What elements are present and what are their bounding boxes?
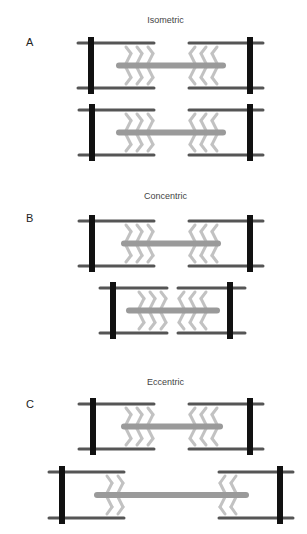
cross-bridge-icon: [212, 246, 217, 256]
cross-bridge-icon: [137, 415, 142, 425]
cross-bridge-icon: [137, 68, 142, 78]
cross-bridge-icon: [201, 246, 206, 256]
cross-bridge-icon: [190, 68, 195, 78]
cross-bridge-icon: [137, 121, 142, 131]
cross-bridge-icon: [212, 121, 217, 131]
sarcomere-diagram: [0, 0, 307, 534]
cross-bridge-icon: [179, 299, 184, 309]
cross-bridge-icon: [190, 121, 195, 131]
z-line: [88, 37, 94, 94]
cross-bridge-icon: [137, 232, 142, 242]
cross-bridge-icon: [126, 246, 131, 256]
cross-bridge-icon: [220, 497, 225, 507]
cross-bridge-icon: [201, 135, 206, 145]
cross-bridge-icon: [201, 299, 206, 309]
cross-bridge-icon: [139, 313, 144, 323]
z-line: [247, 398, 253, 455]
z-line: [90, 398, 96, 455]
z-line: [89, 215, 95, 272]
cross-bridge-icon: [150, 299, 155, 309]
z-line: [247, 37, 253, 94]
cross-bridge-icon: [231, 497, 236, 507]
cross-bridge-icon: [137, 54, 142, 64]
z-line: [277, 466, 283, 524]
cross-bridge-icon: [126, 415, 131, 425]
cross-bridge-icon: [201, 429, 206, 439]
cross-bridge-icon: [190, 135, 195, 145]
cross-bridge-icon: [201, 232, 206, 242]
cross-bridge-icon: [150, 313, 155, 323]
cross-bridge-icon: [107, 497, 112, 507]
cross-bridge-icon: [212, 429, 217, 439]
cross-bridge-icon: [190, 299, 195, 309]
cross-bridge-icon: [118, 497, 123, 507]
cross-bridge-icon: [190, 415, 195, 425]
cross-bridge-icon: [137, 135, 142, 145]
cross-bridge-icon: [148, 54, 153, 64]
cross-bridge-icon: [220, 483, 225, 493]
cross-bridge-icon: [161, 313, 166, 323]
cross-bridge-icon: [148, 135, 153, 145]
cross-bridge-icon: [212, 135, 217, 145]
cross-bridge-icon: [126, 68, 131, 78]
cross-bridge-icon: [212, 415, 217, 425]
cross-bridge-icon: [139, 299, 144, 309]
cross-bridge-icon: [212, 232, 217, 242]
cross-bridge-icon: [212, 68, 217, 78]
cross-bridge-icon: [190, 429, 195, 439]
cross-bridge-icon: [201, 415, 206, 425]
cross-bridge-icon: [190, 54, 195, 64]
cross-bridge-icon: [126, 54, 131, 64]
cross-bridge-icon: [148, 415, 153, 425]
z-line: [247, 104, 253, 161]
cross-bridge-icon: [118, 483, 123, 493]
cross-bridge-icon: [148, 68, 153, 78]
cross-bridge-icon: [126, 232, 131, 242]
cross-bridge-icon: [201, 54, 206, 64]
cross-bridge-icon: [201, 121, 206, 131]
z-line: [227, 282, 233, 339]
cross-bridge-icon: [201, 68, 206, 78]
cross-bridge-icon: [137, 429, 142, 439]
cross-bridge-icon: [212, 54, 217, 64]
cross-bridge-icon: [148, 246, 153, 256]
cross-bridge-icon: [126, 135, 131, 145]
cross-bridge-icon: [231, 483, 236, 493]
cross-bridge-icon: [201, 313, 206, 323]
z-line: [59, 466, 65, 524]
cross-bridge-icon: [126, 429, 131, 439]
cross-bridge-icon: [161, 299, 166, 309]
cross-bridge-icon: [137, 246, 142, 256]
z-line: [110, 282, 116, 339]
z-line: [247, 215, 253, 272]
cross-bridge-icon: [179, 313, 184, 323]
cross-bridge-icon: [148, 121, 153, 131]
cross-bridge-icon: [107, 483, 112, 493]
cross-bridge-icon: [190, 313, 195, 323]
cross-bridge-icon: [190, 232, 195, 242]
cross-bridge-icon: [190, 246, 195, 256]
z-line: [89, 104, 95, 161]
cross-bridge-icon: [148, 232, 153, 242]
cross-bridge-icon: [126, 121, 131, 131]
cross-bridge-icon: [148, 429, 153, 439]
